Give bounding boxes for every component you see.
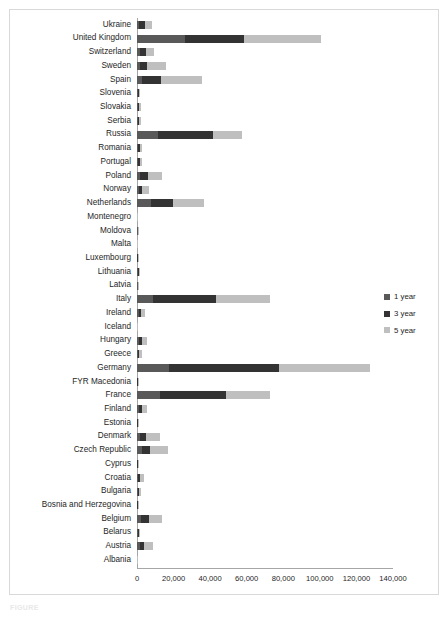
category-label: Belarus bbox=[103, 528, 131, 536]
bars-layer bbox=[137, 18, 393, 567]
stacked-bar bbox=[137, 515, 162, 523]
stacked-bar bbox=[137, 158, 142, 166]
bar-segment bbox=[216, 295, 271, 303]
bar-row bbox=[137, 155, 393, 169]
category-label: Montenegro bbox=[87, 213, 131, 221]
stacked-bar bbox=[137, 474, 144, 482]
category-label: Slovakia bbox=[100, 103, 131, 111]
category-label: Croatia bbox=[105, 474, 131, 482]
stacked-bar bbox=[137, 556, 138, 564]
stacked-bar bbox=[137, 35, 321, 43]
bar-segment bbox=[140, 158, 142, 166]
bar-row bbox=[137, 238, 393, 252]
stacked-bar bbox=[137, 144, 142, 152]
category-label: Czech Republic bbox=[74, 446, 131, 454]
bar-row bbox=[137, 553, 393, 567]
bar-segment bbox=[150, 446, 168, 454]
value-tick-label: 100,000 bbox=[306, 574, 333, 583]
bar-row bbox=[137, 87, 393, 101]
category-label: Lithuania bbox=[98, 268, 131, 276]
bar-row bbox=[137, 498, 393, 512]
stacked-bar bbox=[137, 240, 138, 248]
bar-segment bbox=[160, 391, 226, 399]
legend-item-3-year: 3 year bbox=[384, 310, 440, 318]
bar-row bbox=[137, 402, 393, 416]
legend-item-5-year: 5 year bbox=[384, 327, 440, 335]
bar-row bbox=[137, 471, 393, 485]
category-label: Bulgaria bbox=[101, 487, 131, 495]
stacked-bar bbox=[137, 21, 152, 29]
bar-segment bbox=[144, 542, 152, 550]
category-label: Romania bbox=[98, 144, 131, 152]
bar-segment bbox=[142, 76, 161, 84]
value-axis-ticks: 020,00040,00060,00080,000100,000120,0001… bbox=[10, 571, 440, 589]
bar-chart: UkraineUnited KingdomSwitzerlandSwedenSp… bbox=[10, 10, 440, 596]
value-tick-label: 120,000 bbox=[343, 574, 370, 583]
category-label: Belgium bbox=[101, 515, 131, 523]
bar-segment bbox=[146, 48, 154, 56]
stacked-bar bbox=[137, 542, 153, 550]
stacked-bar bbox=[137, 227, 138, 235]
stacked-bar bbox=[137, 433, 160, 441]
bar-segment bbox=[137, 131, 158, 139]
bar-row bbox=[137, 526, 393, 540]
bar-segment bbox=[148, 172, 162, 180]
category-label: France bbox=[106, 391, 131, 399]
bar-segment bbox=[142, 186, 148, 194]
stacked-bar bbox=[137, 89, 140, 97]
bar-segment bbox=[139, 103, 141, 111]
bar-row bbox=[137, 224, 393, 238]
bar-segment bbox=[139, 529, 140, 537]
stacked-bar bbox=[137, 282, 139, 290]
bar-segment bbox=[158, 131, 213, 139]
value-tick-label: 140,000 bbox=[379, 574, 406, 583]
category-label: Serbia bbox=[107, 117, 131, 125]
bar-segment bbox=[142, 337, 147, 345]
bar-row bbox=[137, 210, 393, 224]
category-label: Finland bbox=[104, 405, 131, 413]
stacked-bar bbox=[137, 446, 168, 454]
category-label: Switzerland bbox=[89, 48, 131, 56]
bar-row bbox=[137, 45, 393, 59]
bar-segment bbox=[139, 89, 140, 97]
stacked-bar bbox=[137, 213, 138, 221]
category-axis-labels: UkraineUnited KingdomSwitzerlandSwedenSp… bbox=[10, 18, 135, 567]
bar-row bbox=[137, 73, 393, 87]
bar-segment bbox=[137, 35, 185, 43]
bar-segment bbox=[139, 488, 141, 496]
bar-segment bbox=[140, 172, 148, 180]
stacked-bar bbox=[137, 295, 270, 303]
value-tick-label: 40,000 bbox=[199, 574, 222, 583]
category-label: Netherlands bbox=[87, 199, 131, 207]
stacked-bar bbox=[137, 391, 270, 399]
bar-segment bbox=[140, 474, 143, 482]
bar-row bbox=[137, 265, 393, 279]
category-label: Malta bbox=[111, 240, 131, 248]
stacked-bar bbox=[137, 501, 138, 509]
category-label: Norway bbox=[103, 185, 131, 193]
stacked-bar bbox=[137, 199, 204, 207]
bar-segment bbox=[226, 391, 270, 399]
bar-segment bbox=[140, 62, 147, 70]
bar-row bbox=[137, 128, 393, 142]
figure-frame: UkraineUnited KingdomSwitzerlandSwedenSp… bbox=[9, 9, 439, 595]
value-tick-label: 80,000 bbox=[272, 574, 295, 583]
bar-row bbox=[137, 443, 393, 457]
bar-segment bbox=[139, 350, 141, 358]
category-label: Latvia bbox=[109, 281, 131, 289]
bar-segment bbox=[137, 295, 153, 303]
category-label: Albania bbox=[104, 556, 131, 564]
legend-swatch-1-year bbox=[384, 294, 390, 300]
category-label: United Kingdom bbox=[73, 34, 131, 42]
category-label: Cyprus bbox=[105, 460, 131, 468]
stacked-bar bbox=[137, 254, 138, 262]
bar-segment bbox=[137, 199, 151, 207]
bar-segment bbox=[169, 364, 279, 372]
bar-row bbox=[137, 293, 393, 307]
bar-row bbox=[137, 347, 393, 361]
stacked-bar bbox=[137, 309, 145, 317]
bar-segment bbox=[137, 391, 160, 399]
bar-segment bbox=[137, 364, 169, 372]
bar-row bbox=[137, 251, 393, 265]
stacked-bar bbox=[137, 337, 147, 345]
